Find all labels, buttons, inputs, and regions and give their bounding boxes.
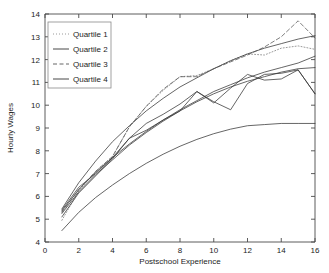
y-tick-label: 6 [36, 192, 41, 201]
chart-legend: Quartile 1Quartile 2Quartile 3Quartile 4 [48, 22, 111, 88]
x-tick-label: 14 [277, 246, 286, 255]
legend-label-2: Quartile 2 [73, 45, 108, 54]
y-tick-label: 14 [31, 10, 40, 19]
y-tick-label: 13 [31, 33, 40, 42]
line-chart: 0246810121416 4567891011121314 Postschoo… [0, 0, 329, 273]
x-tick-label: 8 [178, 246, 183, 255]
y-tick-label: 8 [36, 147, 41, 156]
x-tick-label: 6 [144, 246, 149, 255]
x-tick-label: 0 [43, 246, 48, 255]
x-tick-label: 2 [77, 246, 82, 255]
y-tick-label: 9 [36, 124, 41, 133]
y-tick-label: 12 [31, 56, 40, 65]
x-tick-label: 16 [311, 246, 320, 255]
x-tick-label: 10 [209, 246, 218, 255]
x-axis-title: Postschool Experience [139, 257, 221, 266]
y-tick-label: 4 [36, 238, 41, 247]
y-axis-title: Hourly Wages [6, 103, 15, 153]
y-tick-label: 5 [36, 215, 41, 224]
x-tick-label: 4 [110, 246, 115, 255]
y-tick-label: 11 [32, 78, 41, 87]
legend-label-1: Quartile 1 [73, 30, 108, 39]
chart-figure: 0246810121416 4567891011121314 Postschoo… [0, 0, 329, 273]
legend-label-4: Quartile 4 [73, 75, 108, 84]
x-tick-label: 12 [243, 246, 252, 255]
y-tick-label: 7 [36, 170, 41, 179]
y-tick-label: 10 [31, 101, 40, 110]
legend-label-3: Quartile 3 [73, 60, 108, 69]
